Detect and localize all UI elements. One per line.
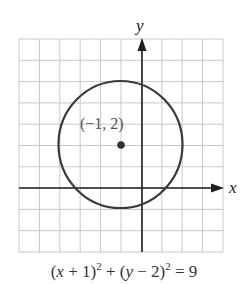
center-point — [117, 141, 125, 149]
eq-rhs: = 9 — [171, 262, 198, 281]
circle-graph: x y (−1, 2) — [0, 0, 248, 284]
eq-var-x: x — [56, 262, 64, 281]
x-axis-arrow-icon — [211, 184, 224, 193]
circle-equation: (x + 1)2 + (y − 2)2 = 9 — [0, 260, 248, 282]
eq-term: − 2) — [133, 262, 165, 281]
x-axis-label: x — [228, 178, 237, 197]
eq-var-y: y — [125, 262, 133, 281]
eq-plus: + ( — [102, 262, 126, 281]
center-point-label: (−1, 2) — [80, 115, 124, 133]
y-axis-label: y — [134, 16, 144, 35]
eq-term: + 1) — [64, 262, 96, 281]
y-axis-arrow-icon — [138, 38, 147, 51]
